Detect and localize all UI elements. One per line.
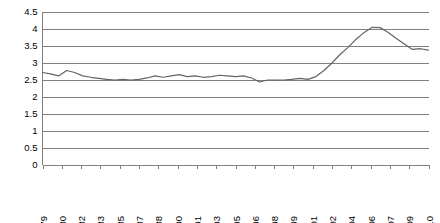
x-axis-tick-label: Nov-91 — [192, 216, 203, 223]
y-axis-tick-labels: 00.511.522.533.544.5 — [24, 6, 37, 170]
x-axis-tick-label: Mar-98 — [269, 216, 280, 223]
y-axis-tick-label: 1 — [32, 125, 37, 136]
y-axis-tick-label: 2.5 — [24, 74, 37, 85]
x-axis-tick-label: Aug-96 — [250, 216, 261, 223]
x-axis-tick-label: Mar-79 — [38, 216, 49, 223]
x-axis-tick-label: Oct-80 — [57, 216, 68, 223]
x-axis-tick-label: Jun-93 — [211, 216, 222, 223]
x-axis-tick-label: Jul-85 — [115, 216, 126, 223]
x-axis-tick-label: Jan-95 — [231, 216, 242, 223]
x-axis-tick-label: May-82 — [76, 216, 87, 223]
x-axis-tick-label: Feb-06 — [366, 216, 377, 223]
x-axis-tick-label: Nov-10 — [424, 216, 435, 223]
y-axis-tick-label: 3 — [32, 57, 37, 68]
x-axis-tick-label: Apr-09 — [404, 216, 415, 223]
x-axis-tick-label: Dec-83 — [95, 216, 106, 223]
x-axis-tick-labels: Mar-79Oct-80May-82Dec-83Jul-85Feb-87Sep-… — [38, 216, 435, 223]
x-axis-tick-label: May-01 — [308, 216, 319, 223]
y-axis-tick-label: 2 — [32, 91, 37, 102]
x-axis-tick-label: Sep-07 — [385, 216, 396, 223]
data-series-line — [43, 27, 429, 82]
y-axis-tick-label: 1.5 — [24, 108, 37, 119]
x-axis-tick-label: Oct-99 — [288, 216, 299, 223]
gridlines — [43, 13, 429, 166]
chart-canvas: 00.511.522.533.544.5 Mar-79Oct-80May-82D… — [0, 0, 440, 223]
x-axis-tick-label: Sep-88 — [153, 216, 164, 223]
y-axis-tick-label: 4 — [32, 23, 37, 34]
x-axis-tick-label: Apr-90 — [173, 216, 184, 223]
line-chart: 00.511.522.533.544.5 Mar-79Oct-80May-82D… — [0, 0, 440, 223]
y-axis-tick-label: 4.5 — [24, 6, 37, 17]
y-axis-tick-label: 0 — [32, 159, 37, 170]
x-axis-tick-label: Dec-02 — [327, 216, 338, 223]
x-axis-tick-label: Feb-87 — [134, 216, 145, 223]
y-axis-tick-label: 3.5 — [24, 40, 37, 51]
y-axis-tick-label: 0.5 — [24, 142, 37, 153]
x-axis-tick-label: Jul-04 — [346, 216, 357, 223]
